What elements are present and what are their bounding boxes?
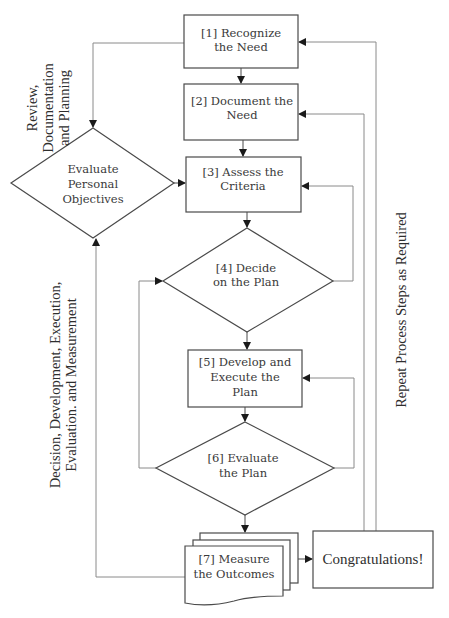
side-label-line: Review, (24, 85, 40, 132)
node-label: Congratulations! (323, 551, 424, 567)
edge-step6-step5 (303, 378, 354, 468)
svg-text:Plan: Plan (232, 385, 258, 399)
svg-text:[3] Assess the: [3] Assess the (202, 165, 283, 179)
svg-text:Execute the: Execute the (210, 370, 280, 384)
node-label: [3] Assess the (202, 165, 283, 179)
svg-text:Objectives: Objectives (62, 192, 123, 206)
node-step3-assess-criteria: [3] Assess the Criteria (186, 157, 301, 212)
svg-text:Documentation: Documentation (40, 63, 56, 153)
side-label-line: Decision, Development, Execution, (47, 282, 63, 489)
node-label: [6] Evaluate (207, 451, 278, 465)
side-label-line: Repeat Process Steps as Required (393, 211, 409, 407)
node-label: the Need (214, 40, 268, 54)
svg-text:Personal: Personal (68, 177, 119, 191)
node-label: Plan (232, 385, 258, 399)
svg-text:Evaluation. and Measurement: Evaluation. and Measurement (63, 298, 79, 472)
node-step1-recognize-need: [1] Recognize the Need (184, 15, 298, 68)
svg-text:Decision, Development, Executi: Decision, Development, Execution, (47, 282, 63, 489)
svg-text:[1] Recognize: [1] Recognize (201, 26, 281, 40)
svg-text:Congratulations!: Congratulations! (323, 551, 424, 567)
svg-text:Review,: Review, (24, 85, 40, 132)
svg-text:[7] Measure: [7] Measure (199, 552, 270, 566)
svg-text:Need: Need (226, 108, 258, 122)
svg-text:[2] Document the: [2] Document the (191, 94, 293, 108)
svg-text:[6] Evaluate: [6] Evaluate (207, 451, 278, 465)
edge-step7-objectives (96, 239, 185, 577)
side-label-line: and Planning (56, 70, 72, 146)
node-label: [5] Develop and (199, 355, 292, 369)
node-label: [1] Recognize (201, 26, 281, 40)
node-step4-decide-plan: [4] Decide on the Plan (163, 228, 333, 332)
node-step5-develop-execute: [5] Develop and Execute the Plan (188, 350, 302, 407)
node-label: [2] Document the (191, 94, 293, 108)
node-step2-document-need: [2] Document the Need (184, 84, 298, 140)
node-label: on the Plan (213, 275, 280, 289)
node-step6-evaluate-plan: [6] Evaluate the Plan (156, 422, 334, 515)
label-review-documentation-planning: Review, Documentation and Planning (24, 63, 72, 153)
node-label: Evaluate (67, 162, 118, 176)
node-label: the Plan (219, 466, 268, 480)
node-label: Need (226, 108, 258, 122)
side-label-line: Evaluation. and Measurement (63, 298, 79, 472)
svg-text:Repeat Process Steps as Requir: Repeat Process Steps as Required (393, 211, 409, 407)
node-congratulations: Congratulations! (313, 531, 433, 588)
svg-text:Evaluate: Evaluate (67, 162, 118, 176)
svg-text:the Need: the Need (214, 40, 268, 54)
side-label-line: Documentation (40, 63, 56, 153)
node-step7-measure-outcomes: [7] Measure the Outcomes (185, 533, 298, 605)
node-label: the Outcomes (194, 567, 275, 581)
node-label: [4] Decide (216, 261, 276, 275)
node-evaluate-personal-objectives: Evaluate Personal Objectives (11, 128, 174, 238)
node-label: [7] Measure (199, 552, 270, 566)
svg-text:and Planning: and Planning (56, 70, 72, 146)
svg-text:the Plan: the Plan (219, 466, 268, 480)
svg-text:on the Plan: on the Plan (213, 275, 280, 289)
svg-text:[5] Develop and: [5] Develop and (199, 355, 292, 369)
edge-step6-step4 (139, 281, 162, 468)
svg-text:[4] Decide: [4] Decide (216, 261, 276, 275)
svg-text:Criteria: Criteria (220, 179, 266, 193)
node-label: Execute the (210, 370, 280, 384)
node-label: Criteria (220, 179, 266, 193)
node-label: Objectives (62, 192, 123, 206)
node-label: Personal (68, 177, 119, 191)
svg-text:the Outcomes: the Outcomes (194, 567, 275, 581)
process-flowchart: [1] Recognize the Need [2] Document the … (0, 0, 449, 618)
label-decision-development-execution: Decision, Development, Execution, Evalua… (47, 282, 79, 489)
label-repeat-process-steps: Repeat Process Steps as Required (393, 211, 409, 407)
edge-step1-objectives (93, 43, 184, 127)
